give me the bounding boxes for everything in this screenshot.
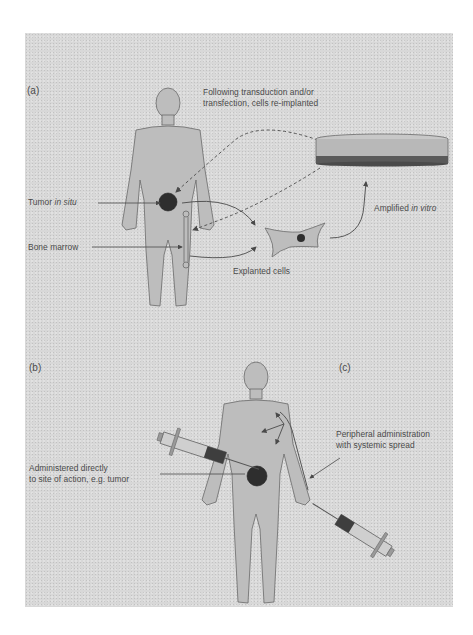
- petri-dish: [316, 134, 448, 167]
- tumor-in-situ-label: Tumor in situ: [28, 197, 77, 208]
- tumor-a: [159, 193, 177, 211]
- panel-label-b: (b): [29, 362, 41, 373]
- syringe-peripheral: [305, 492, 400, 566]
- amplified-in-vitro-label: Amplified in vitro: [374, 203, 436, 214]
- explanted-cell: [265, 223, 325, 257]
- peripheral-administration-label: Peripheral administration with systemic …: [336, 429, 430, 451]
- peripheral-leader-line: [310, 458, 340, 478]
- reimplant-label-line1: Following transduction and/or: [203, 87, 318, 98]
- marrow-to-cells-arrow: [190, 247, 256, 258]
- bone-marrow-label: Bone marrow: [28, 242, 78, 253]
- direct-label-line2: to site of action, e.g. tumor: [29, 474, 129, 485]
- peripheral-label-line2: with systemic spread: [336, 440, 430, 451]
- panel-label-a: (a): [27, 85, 39, 96]
- amplified-arrow: [330, 182, 366, 238]
- reimplant-label: Following transduction and/or transfecti…: [203, 87, 318, 109]
- tumor-to-cells-arrow: [182, 201, 255, 225]
- peripheral-label-line1: Peripheral administration: [336, 429, 430, 440]
- reimplant-label-line2: transfection, cells re-implanted: [203, 98, 318, 109]
- panel-label-c: (c): [339, 362, 351, 373]
- explanted-cells-label: Explanted cells: [233, 266, 290, 277]
- direct-label-line1: Administered directly: [29, 463, 129, 474]
- direct-administration-label: Administered directly to site of action,…: [29, 463, 129, 485]
